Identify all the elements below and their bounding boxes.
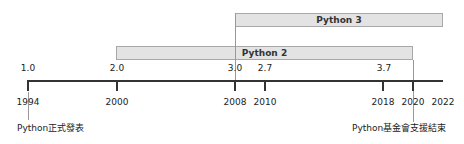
- version-label: 1.0: [21, 63, 35, 73]
- year-label: 2010: [254, 97, 277, 107]
- year-label: 2008: [224, 97, 247, 107]
- tick-1994: [27, 81, 29, 91]
- tick-2018: [382, 81, 384, 91]
- tick-2020: [412, 81, 414, 91]
- annotation-python-release: Python正式發表: [17, 121, 84, 134]
- tick-2010: [264, 81, 266, 91]
- version-label: 2.7: [258, 63, 272, 73]
- year-label: 1994: [17, 97, 40, 107]
- tick-2008: [234, 81, 236, 91]
- python2-bar-label: Python 2: [242, 48, 287, 58]
- version-label: 3.7: [377, 63, 391, 73]
- python3-bar: Python 3: [235, 13, 443, 27]
- annotation-support-end: Python基金會支援結束: [352, 121, 446, 134]
- version-label: 3.0: [228, 63, 242, 73]
- year-label: 2022: [432, 97, 455, 107]
- year-label: 2020: [402, 97, 425, 107]
- year-label: 2018: [372, 97, 395, 107]
- tick-2000: [116, 81, 118, 91]
- python3-bar-label: Python 3: [316, 15, 361, 25]
- guide-line-2020: [413, 60, 414, 122]
- version-label: 2.0: [110, 63, 124, 73]
- year-label: 2000: [106, 97, 129, 107]
- python2-bar: Python 2: [116, 46, 413, 60]
